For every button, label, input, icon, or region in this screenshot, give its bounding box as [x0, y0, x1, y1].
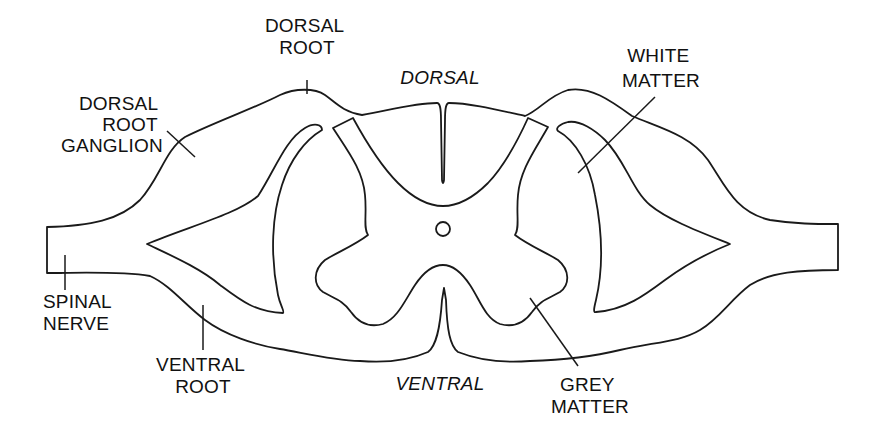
- right-gap: [557, 122, 730, 312]
- central-canal: [436, 222, 450, 236]
- spinal-cord-diagram: DORSAL ROOT DORSAL ROOT GANGLION DORSAL …: [0, 0, 885, 439]
- label-dorsal-root-ganglion: DORSAL ROOT GANGLION: [61, 93, 163, 156]
- label-dorsal-root: DORSAL ROOT: [265, 15, 349, 58]
- white-matter-leader: [578, 97, 655, 173]
- label-white-matter: WHITE MATTER: [622, 45, 700, 91]
- left-gap: [147, 125, 322, 313]
- label-ventral: VENTRAL: [395, 373, 484, 394]
- grey-matter-leader: [530, 298, 578, 366]
- label-spinal-nerve: SPINAL NERVE: [43, 291, 117, 334]
- label-dorsal: DORSAL: [400, 67, 479, 88]
- label-grey-matter: GREY MATTER: [551, 374, 629, 417]
- label-ventral-root: VENTRAL ROOT: [156, 354, 250, 397]
